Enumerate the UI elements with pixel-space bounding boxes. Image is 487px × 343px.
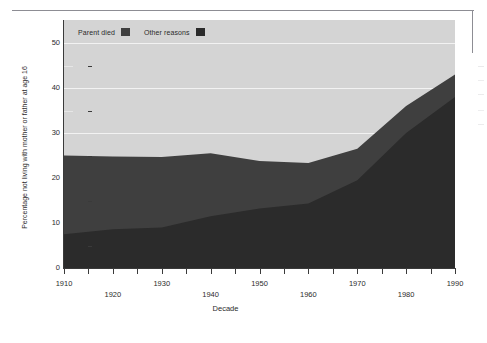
legend-swatch-parent-died bbox=[121, 28, 130, 36]
x-tick-mark-minor-3 bbox=[235, 269, 236, 274]
x-tick-mark-1920 bbox=[113, 269, 114, 274]
x-axis-title: Decade bbox=[0, 304, 487, 313]
stacked-area-chart-figure: Parent died Other reasons 01020304050 19… bbox=[0, 0, 487, 343]
x-tick-label-1980: 1980 bbox=[398, 290, 415, 299]
y-tick-label-50: 50 bbox=[38, 39, 60, 47]
x-tick-label-1940: 1940 bbox=[202, 290, 219, 299]
x-tick-label-1970: 1970 bbox=[349, 279, 366, 288]
legend-entry-other-reasons: Other reasons bbox=[144, 28, 205, 36]
y-tick-mark-15 bbox=[88, 201, 92, 202]
chart-legend: Parent died Other reasons bbox=[78, 28, 205, 36]
x-tick-mark-1970 bbox=[357, 269, 358, 274]
x-tick-mark-minor-4 bbox=[284, 269, 285, 274]
series-areas bbox=[64, 20, 455, 268]
y-axis-line bbox=[63, 20, 64, 269]
x-tick-mark-1950 bbox=[260, 269, 261, 274]
x-tick-label-1990: 1990 bbox=[447, 279, 464, 288]
x-tick-mark-minor-7 bbox=[431, 269, 432, 274]
x-tick-mark-1990 bbox=[455, 269, 456, 274]
x-tick-mark-1930 bbox=[162, 269, 163, 274]
x-tick-label-1950: 1950 bbox=[251, 279, 268, 288]
legend-label-other-reasons: Other reasons bbox=[144, 29, 190, 36]
x-axis-title-text: Decade bbox=[213, 304, 239, 313]
x-tick-label-1920: 1920 bbox=[105, 290, 122, 299]
y-tick-label-40: 40 bbox=[38, 84, 60, 92]
y-axis-ticks: 01020304050 bbox=[30, 0, 60, 343]
y-tick-mark-35 bbox=[88, 111, 92, 112]
y-tick-mark-45 bbox=[88, 66, 92, 67]
x-tick-mark-minor-5 bbox=[333, 269, 334, 274]
legend-entry-parent-died: Parent died bbox=[78, 28, 130, 36]
y-axis-title: Percentage not living with mother or fat… bbox=[21, 38, 28, 258]
x-tick-label-1960: 1960 bbox=[300, 290, 317, 299]
x-tick-mark-minor-1 bbox=[137, 269, 138, 274]
y-tick-label-0: 0 bbox=[38, 264, 60, 272]
x-tick-label-1930: 1930 bbox=[153, 279, 170, 288]
x-tick-mark-minor-0 bbox=[88, 269, 89, 274]
x-tick-mark-1980 bbox=[406, 269, 407, 274]
x-tick-mark-1960 bbox=[308, 269, 309, 274]
y-tick-mark-5 bbox=[88, 246, 92, 247]
x-tick-label-1910: 1910 bbox=[56, 279, 73, 288]
legend-swatch-other-reasons bbox=[196, 28, 205, 36]
x-tick-mark-1940 bbox=[211, 269, 212, 274]
plot-area: Parent died Other reasons bbox=[64, 20, 455, 268]
y-tick-label-10: 10 bbox=[38, 219, 60, 227]
y-tick-mark-25 bbox=[88, 156, 92, 157]
x-tick-mark-minor-6 bbox=[382, 269, 383, 274]
y-tick-label-30: 30 bbox=[38, 129, 60, 137]
y-tick-label-20: 20 bbox=[38, 174, 60, 182]
legend-label-parent-died: Parent died bbox=[78, 29, 115, 36]
x-tick-mark-1910 bbox=[64, 269, 65, 274]
x-tick-mark-minor-2 bbox=[186, 269, 187, 274]
